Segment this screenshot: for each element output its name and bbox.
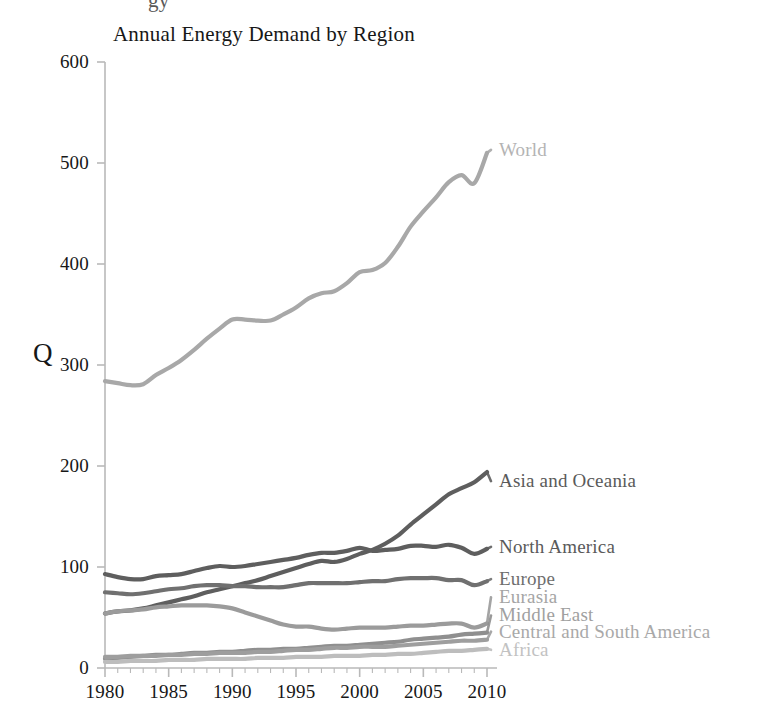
series-line-world xyxy=(105,153,487,386)
x-axis-tick-label: 1990 xyxy=(197,681,267,703)
series-line-eurasia xyxy=(105,605,487,629)
x-axis-tick-label: 2010 xyxy=(452,681,522,703)
y-axis-tick-label: 200 xyxy=(37,455,89,477)
plot-area xyxy=(0,0,766,727)
y-axis-tick-label: 0 xyxy=(37,657,89,679)
series-leader-africa xyxy=(487,649,491,650)
series-leader-world xyxy=(487,150,491,153)
series-label-asia-and-oceania: Asia and Oceania xyxy=(499,470,636,492)
series-label-north-america: North America xyxy=(499,536,615,558)
x-axis-tick-label: 2000 xyxy=(325,681,395,703)
y-axis-tick-label: 400 xyxy=(37,253,89,275)
series-leader-asia-and-oceania xyxy=(487,472,491,481)
series-leader-north-america xyxy=(487,547,491,549)
series-label-world: World xyxy=(499,139,547,161)
y-axis-tick-label: 100 xyxy=(37,556,89,578)
y-axis-tick-label: 500 xyxy=(37,152,89,174)
series-label-africa: Africa xyxy=(499,639,549,661)
chart-figure: gy Annual Energy Demand by Region Q 0100… xyxy=(0,0,766,727)
x-axis-tick-label: 1980 xyxy=(70,681,140,703)
y-axis-tick-label: 300 xyxy=(37,354,89,376)
x-axis-tick-label: 1995 xyxy=(261,681,331,703)
y-axis-tick-label: 600 xyxy=(37,51,89,73)
x-axis-tick-label: 1985 xyxy=(134,681,204,703)
series-line-north-america xyxy=(105,545,487,580)
series-line-europe xyxy=(105,578,487,594)
x-axis-tick-label: 2005 xyxy=(388,681,458,703)
series-leader-europe xyxy=(487,579,491,581)
